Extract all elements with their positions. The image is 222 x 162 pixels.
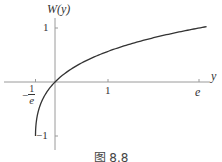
fraction: 1e: [28, 84, 35, 106]
x-tick-label-1: 1: [105, 85, 111, 96]
x-axis-label: y: [211, 70, 216, 82]
y-tick-label-1: 1: [43, 22, 49, 33]
y-axis-label-func: W: [47, 2, 57, 16]
x-tick-label-minus-inv-e: −1e: [22, 84, 35, 106]
y-axis-label: W(y): [47, 3, 70, 15]
x-tick-label-e: e: [195, 86, 200, 98]
figure-caption: 图 8.8: [0, 152, 222, 162]
fraction-denominator: e: [28, 95, 35, 106]
lambert-w-curve: [36, 27, 207, 136]
y-axis-label-arg: (y): [57, 2, 70, 16]
plot-area: [0, 0, 222, 162]
y-tick-label-minus-1: −1: [36, 130, 48, 141]
